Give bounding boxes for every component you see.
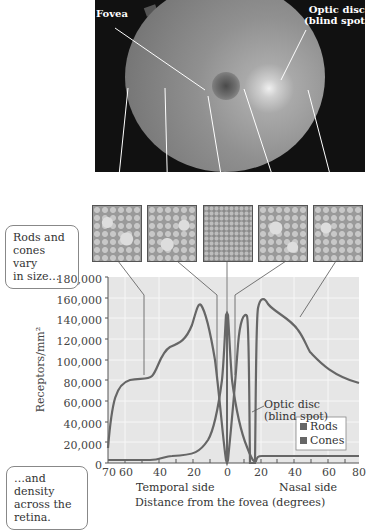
y-tick: 120,000 — [52, 332, 102, 353]
x-tick: 40 — [153, 466, 167, 479]
x-tick: 70 — [102, 466, 116, 479]
y-tick: 0 — [52, 456, 102, 477]
y-tick: 180,000 — [52, 270, 102, 291]
legend-rods-label: Rods — [310, 420, 338, 433]
density-callout-line3: retina. — [14, 511, 80, 524]
y-tick: 140,000 — [52, 311, 102, 332]
y-tick: 100,000 — [52, 353, 102, 374]
x-tick: 20 — [187, 466, 201, 479]
legend-rods-swatch — [300, 423, 307, 430]
y-axis-label: Receptors/mm² — [34, 320, 47, 420]
y-tick: 40,000 — [52, 415, 102, 436]
x-tick: 20 — [254, 466, 268, 479]
temporal-side-label: Temporal side — [136, 481, 215, 494]
legend-cones-label: Cones — [310, 434, 344, 447]
y-tick: 60,000 — [52, 394, 102, 415]
fundus-leader-lines — [115, 28, 338, 205]
y-tick: 160,000 — [52, 291, 102, 312]
y-tick: 80,000 — [52, 374, 102, 395]
x-tick: 40 — [288, 466, 302, 479]
y-axis-ticks: 180,000 160,000 140,000 120,000 100,000 … — [52, 270, 102, 477]
y-tick: 20,000 — [52, 436, 102, 457]
x-axis-label: Distance from the fovea (degrees) — [135, 496, 325, 509]
x-tick: 60 — [322, 466, 336, 479]
legend-cones-swatch — [300, 437, 307, 444]
nasal-side-label: Nasal side — [279, 481, 337, 494]
x-tick: 80 — [352, 466, 366, 479]
x-tick: 60 — [119, 466, 133, 479]
x-tick: 0 — [224, 466, 231, 479]
